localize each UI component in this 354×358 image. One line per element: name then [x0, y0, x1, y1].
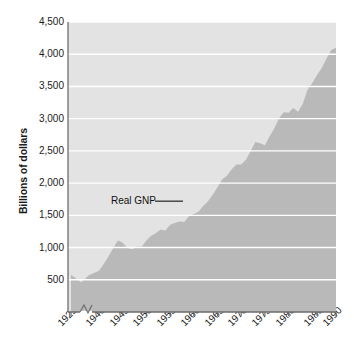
chart-figure: Billions of dollars 4,5004,0003,5003,000… — [0, 0, 354, 358]
annotation-real-gnp: Real GNP — [111, 195, 156, 206]
plot-area — [0, 0, 354, 358]
